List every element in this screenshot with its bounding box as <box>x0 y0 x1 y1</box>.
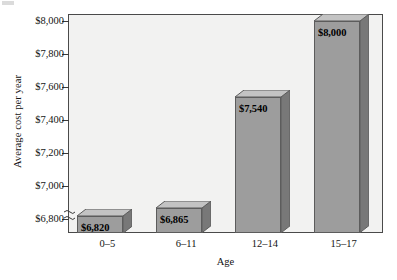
x-category-label: 12–14 <box>230 238 300 249</box>
y-tick-label: $8,000 <box>4 16 64 27</box>
x-axis-title: Age <box>68 256 383 267</box>
x-category-label: 0–5 <box>72 238 142 249</box>
bar-value-label: $6,820 <box>81 222 109 233</box>
y-tick-label: $7,600 <box>4 82 64 93</box>
bar-front-face <box>314 21 360 233</box>
y-tick-label: $7,000 <box>4 181 64 192</box>
y-tick-label: $7,800 <box>4 49 64 60</box>
x-category-label: 15–17 <box>309 238 379 249</box>
scan-artifact <box>2 1 14 5</box>
bar-chart-figure: Average cost per year Age $8,000$7,800$7… <box>0 0 397 280</box>
axis-break-icon <box>62 207 76 225</box>
bar-value-label: $6,865 <box>160 214 188 225</box>
y-tick-label: $6,800 <box>4 214 64 225</box>
x-category-label: 6–11 <box>151 238 221 249</box>
bar-value-label: $7,540 <box>239 103 267 114</box>
bar-front-face <box>235 97 281 233</box>
bar-value-label: $8,000 <box>318 27 346 38</box>
bar-15–17 <box>314 14 369 233</box>
y-tick-label: $7,400 <box>4 115 64 126</box>
y-tick-label: $7,200 <box>4 148 64 159</box>
